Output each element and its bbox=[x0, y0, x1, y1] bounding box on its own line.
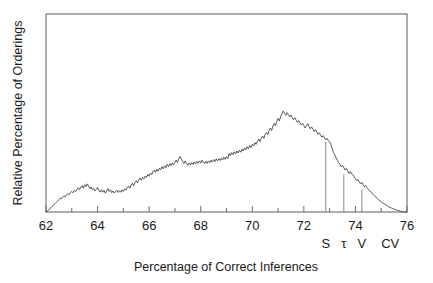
x-axis-title: Percentage of Correct Inferences bbox=[134, 260, 318, 274]
x-axis-minor-ticks bbox=[72, 208, 381, 212]
x-tick-label-76: 76 bbox=[400, 218, 414, 233]
x-axis-tick-labels: 6264666870727476 bbox=[39, 218, 414, 233]
y-axis-title-text: Relative Percentage of Orderings bbox=[11, 21, 25, 206]
y-axis-title: Relative Percentage of Orderings bbox=[11, 21, 25, 206]
plot-frame bbox=[46, 14, 407, 212]
annotation-marker-lines bbox=[326, 142, 362, 212]
x-tick-label-64: 64 bbox=[90, 218, 104, 233]
x-tick-label-70: 70 bbox=[245, 218, 259, 233]
x-tick-label-62: 62 bbox=[39, 218, 53, 233]
x-tick-label-66: 66 bbox=[142, 218, 156, 233]
marker-label-S: S bbox=[321, 236, 330, 251]
marker-label-CV: CV bbox=[381, 236, 399, 251]
x-tick-label-74: 74 bbox=[348, 218, 362, 233]
annotation-marker-labels: SτVCV bbox=[321, 236, 399, 251]
marker-label-τ: τ bbox=[341, 236, 347, 251]
x-tick-label-68: 68 bbox=[193, 218, 207, 233]
chart-figure: Relative Percentage of Orderings 6264666… bbox=[0, 0, 433, 283]
marker-label-V: V bbox=[358, 236, 367, 251]
density-curve bbox=[46, 111, 407, 212]
x-axis-title-text: Percentage of Correct Inferences bbox=[134, 260, 318, 274]
histogram-chart: Relative Percentage of Orderings 6264666… bbox=[0, 0, 433, 283]
x-tick-label-72: 72 bbox=[297, 218, 311, 233]
